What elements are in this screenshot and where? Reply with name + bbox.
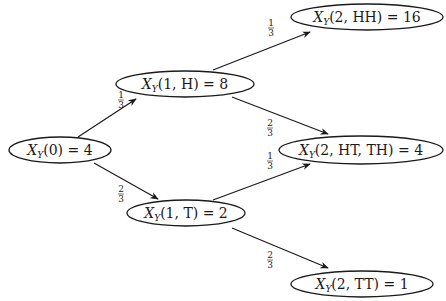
svg-text:1: 1 [268, 18, 274, 28]
edge-x0-to-x1h [78, 99, 136, 137]
prob-label-x1h-x2hh: 1 3 [268, 18, 274, 38]
svg-text:2: 2 [118, 184, 124, 194]
node-x1h: XY(1, H) = 8 [116, 71, 254, 97]
svg-text:3: 3 [267, 260, 273, 270]
node-x0-label: XY(0) = 4 [26, 142, 92, 160]
probability-tree-diagram: 1 3 2 3 1 3 2 3 1 3 2 3 XY(0) = 4 XY(1, … [0, 0, 446, 301]
prob-label-x1t-x2tt: 2 3 [267, 250, 273, 270]
edge-x1h-to-x2hh [213, 32, 310, 70]
node-x2htth: XY(2, HT, TH) = 4 [279, 136, 443, 164]
edge-x1t-to-x2tt [232, 228, 328, 268]
prob-label-x0-x1t: 2 3 [118, 184, 124, 204]
node-x2hh-label: XY(2, HH) = 16 [312, 9, 421, 27]
edge-x0-to-x1t [94, 163, 158, 199]
node-x2tt: XY(2, TT) = 1 [291, 271, 433, 297]
svg-text:3: 3 [267, 128, 273, 138]
edge-x1t-to-x2htth [213, 164, 310, 200]
svg-text:3: 3 [118, 100, 124, 110]
svg-text:3: 3 [267, 161, 273, 171]
prob-label-x1h-x2htth: 2 3 [267, 118, 273, 138]
svg-text:2: 2 [267, 118, 273, 128]
node-x2hh: XY(2, HH) = 16 [291, 4, 443, 30]
svg-text:3: 3 [268, 28, 274, 38]
node-x1t: XY(1, T) = 2 [127, 200, 245, 226]
edge-x1h-to-x2htth [232, 97, 328, 134]
svg-text:3: 3 [118, 194, 124, 204]
node-x2htth-label: XY(2, HT, TH) = 4 [298, 142, 423, 160]
svg-text:1: 1 [267, 151, 273, 161]
node-x0: XY(0) = 4 [9, 137, 111, 163]
prob-label-x0-x1h: 1 3 [118, 90, 124, 110]
svg-text:1: 1 [118, 90, 124, 100]
prob-label-x1t-x2htth: 1 3 [267, 151, 273, 171]
svg-text:2: 2 [267, 250, 273, 260]
